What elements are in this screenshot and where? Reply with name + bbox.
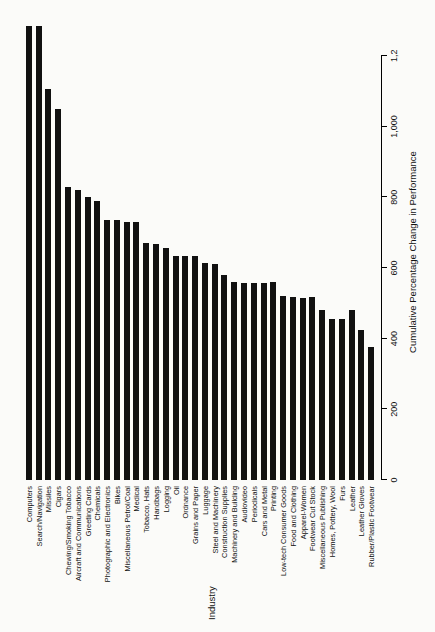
category-axis-tick-label: Ordnance [181, 486, 190, 632]
value-axis-tick [381, 126, 387, 127]
bar [349, 310, 355, 480]
category-axis-tick-label: Computers [24, 486, 33, 632]
bar [153, 244, 159, 480]
value-axis-tick [381, 55, 387, 56]
category-axis-tick-label: Logging [161, 486, 170, 632]
bar-series: ComputersSearch/NavigationMissilesCigars… [0, 0, 435, 632]
bar [261, 283, 267, 480]
bar [163, 248, 169, 480]
value-axis-title: Cumulative Percentage Change in Performa… [407, 24, 418, 480]
bar [300, 298, 306, 480]
bar [280, 296, 286, 480]
category-axis-tick-label: Homes, Pottery, Wool [328, 486, 337, 632]
category-axis-tick-label: Chewing/Smoking Tobacco [64, 486, 73, 632]
chart-figure: ComputersSearch/NavigationMissilesCigars… [0, 0, 435, 632]
value-axis-tick-label: 600 [389, 260, 399, 275]
bar [133, 222, 139, 480]
category-axis-tick-label: Food and Clothing [288, 486, 297, 632]
category-axis-tick-label: Miscellaneous Publishing [318, 486, 327, 632]
value-axis-tick [381, 338, 387, 339]
category-axis-tick-label: Leather [347, 486, 356, 632]
value-axis-tick [381, 267, 387, 268]
category-axis-tick-label: Cars and Metal [259, 486, 268, 632]
category-axis-tick-label: Oil [171, 486, 180, 632]
bar [251, 283, 257, 480]
category-axis-tick-label: Low-tech Consumer Goods [279, 486, 288, 632]
category-axis-tick-label: Cigars [54, 486, 63, 632]
bar [104, 220, 110, 480]
category-axis-tick-label: Grains and Paper [191, 486, 200, 632]
bar [329, 319, 335, 480]
bar [26, 26, 32, 480]
plot-area: ComputersSearch/NavigationMissilesCigars… [0, 0, 435, 632]
category-axis-tick-label: Footwear Cut Stock [308, 486, 317, 632]
category-axis-tick-label: Chemicals [93, 486, 102, 632]
category-axis-tick-label: Machinery and Building [230, 486, 239, 632]
rotated-chart-canvas: ComputersSearch/NavigationMissilesCigars… [0, 0, 435, 632]
category-axis-tick-label: Bikes [112, 486, 121, 632]
category-axis-tick-label: Miscellaneous Petrol/Coal [122, 486, 131, 632]
value-axis-tick-label: 1,000 [389, 115, 399, 138]
bar [339, 319, 345, 480]
value-axis-tick-label: 400 [389, 331, 399, 346]
category-axis-tick-label: Tobacco, Hats [142, 486, 151, 632]
category-axis-tick-label: Leather Gloves [357, 486, 366, 632]
value-axis-tick [381, 408, 387, 409]
bar [124, 222, 130, 480]
category-axis-tick-label: Furs [337, 486, 346, 632]
bar [65, 187, 71, 480]
bar [309, 297, 315, 480]
bar [36, 26, 42, 480]
category-axis-tick-label: Aircraft and Communications [73, 486, 82, 632]
bar [173, 256, 179, 480]
value-axis-tick-label: 1,2 [389, 50, 399, 63]
bar [241, 283, 247, 480]
category-axis-tick-label: Missiles [44, 486, 53, 632]
category-axis-tick-label: Medical [132, 486, 141, 632]
value-axis: 02004006008001,0001,2 [381, 56, 382, 480]
bar [231, 282, 237, 480]
category-axis-tick-label: Apparel-Women [298, 486, 307, 632]
category-axis-tick-label: Photographic and Electronics [103, 486, 112, 632]
category-axis-tick-label: Printing [269, 486, 278, 632]
bar [290, 297, 296, 480]
value-axis-tick [381, 479, 387, 480]
category-axis-tick-label: Search/Navigation [34, 486, 43, 632]
bar [221, 275, 227, 480]
bar [94, 201, 100, 480]
bar [192, 256, 198, 480]
category-axis-tick-label: Periodicals [249, 486, 258, 632]
category-axis-tick-label: Greeting Cards [83, 486, 92, 632]
category-axis-title: Industry [205, 586, 216, 620]
bar [143, 243, 149, 480]
bar [202, 263, 208, 480]
bar [358, 330, 364, 480]
bar [270, 282, 276, 480]
category-axis-tick-label: Construction Supplies [220, 486, 229, 632]
value-axis-tick [381, 196, 387, 197]
value-axis-tick-label: 800 [389, 190, 399, 205]
bar [85, 197, 91, 480]
bar [212, 264, 218, 480]
bar [75, 190, 81, 480]
category-axis-tick-label: Rubber/Plastic Footwear [367, 486, 376, 632]
value-axis-tick-label: 200 [389, 402, 399, 417]
bar [182, 256, 188, 480]
bar [368, 347, 374, 480]
category-axis-tick-label: Audiovideo [240, 486, 249, 632]
bar [55, 109, 61, 480]
bar [45, 89, 51, 480]
bar [114, 220, 120, 480]
category-axis-tick-label: Handbags [152, 486, 161, 632]
value-axis-tick-label: 0 [389, 477, 399, 482]
bar [319, 310, 325, 480]
